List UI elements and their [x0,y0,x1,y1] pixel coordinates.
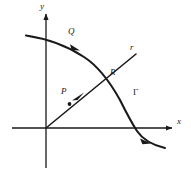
figure-canvas [0,0,191,174]
ray-r [46,54,136,128]
y-axis-label: y [40,2,44,11]
ray-r-direction-arrow [72,92,84,100]
math-figure: y x Q R P r Γ [0,0,191,174]
ray-r-line [46,54,136,128]
point-label-p: P [61,87,67,96]
x-axis-label: x [177,117,181,126]
point-label-q: Q [68,27,75,36]
ray-label-r: r [130,43,134,52]
point-label-r: R [110,68,116,77]
point-p-marker [68,102,72,106]
curve-label-gamma: Γ [133,88,138,97]
curve-gamma-path [26,36,165,149]
curve-gamma [26,36,165,149]
